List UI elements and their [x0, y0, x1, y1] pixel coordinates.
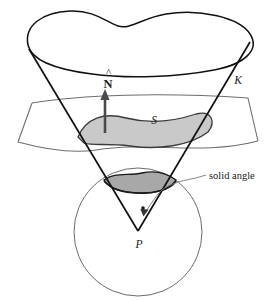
- normal-vector-label: N: [103, 77, 112, 91]
- figure-canvas: ^ N K S P solid angle: [0, 0, 276, 301]
- cone-label-K: K: [233, 74, 243, 86]
- apex-point-P-dot: [141, 206, 145, 210]
- solid-angle-label: solid angle: [209, 170, 255, 181]
- top-boundary-blob: [27, 11, 253, 77]
- surface-label-S: S: [151, 114, 157, 126]
- solid-angle-figure: ^ N K S P solid angle: [0, 0, 276, 301]
- solid-angle-leader: [196, 175, 206, 178]
- apex-point-label-P: P: [134, 238, 142, 250]
